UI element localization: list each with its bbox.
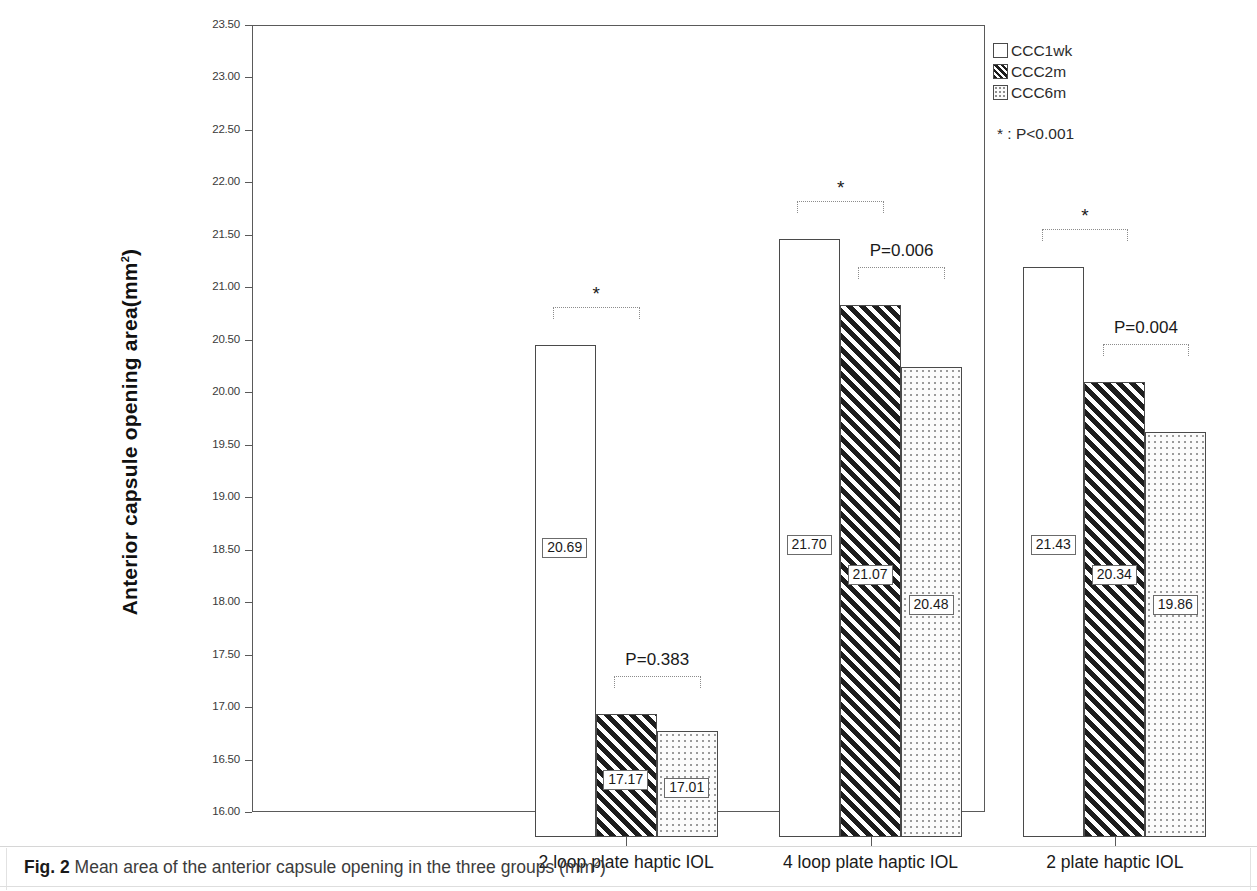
- y-axis-tick-label: 23.50: [190, 18, 240, 30]
- y-axis-tick-label: 19.50: [190, 438, 240, 450]
- significance-bracket: [797, 201, 884, 213]
- legend-item-ccc6m: CCC6m: [993, 82, 1243, 103]
- x-axis-tick-mark: [871, 837, 872, 846]
- legend-item-label: CCC2m: [1011, 63, 1066, 81]
- bar-value-label: 20.69: [542, 538, 587, 558]
- y-axis-tick-mark: [245, 707, 252, 708]
- bar-value-label: 17.01: [664, 778, 709, 798]
- figure-caption-text-end: ): [600, 857, 606, 877]
- figure-caption-text: Mean area of the anterior capsule openin…: [75, 857, 594, 877]
- significance-bracket: [1103, 344, 1190, 356]
- significance-bracket: [858, 267, 945, 279]
- y-axis-tick-label: 23.00: [190, 70, 240, 82]
- legend-swatch-icon: [993, 64, 1008, 79]
- y-axis-title-text: Anterior capsule opening area(mm: [118, 262, 141, 615]
- bar-ccc6m-3: [1145, 432, 1206, 837]
- y-axis-tick-mark: [245, 340, 252, 341]
- bar-value-label: 21.70: [787, 535, 832, 555]
- x-axis-tick-mark: [1115, 837, 1116, 846]
- legend-swatch-icon: [993, 85, 1008, 100]
- legend-item-ccc1wk: CCC1wk: [993, 40, 1243, 61]
- y-axis-tick-mark: [245, 235, 252, 236]
- significance-label: *: [1015, 205, 1155, 227]
- significance-label: *: [771, 177, 911, 199]
- legend-item-ccc2m: CCC2m: [993, 61, 1243, 82]
- significance-label: P=0.383: [587, 650, 727, 670]
- y-axis-title-superscript: 2: [119, 256, 131, 262]
- y-axis-tick-label: 19.00: [190, 490, 240, 502]
- figure-caption: Fig. 2 Mean area of the anterior capsule…: [24, 856, 1224, 878]
- y-axis-tick-mark: [245, 130, 252, 131]
- significance-bracket: [614, 676, 701, 688]
- significance-bracket: [1042, 229, 1129, 241]
- y-axis-tick-label: 21.50: [190, 228, 240, 240]
- y-axis-tick-label: 18.50: [190, 543, 240, 555]
- y-axis-tick-mark: [245, 77, 252, 78]
- figure-caption-tag: Fig. 2: [24, 857, 70, 877]
- bar-value-label: 20.48: [909, 595, 954, 615]
- y-axis-tick-label: 16.00: [190, 805, 240, 817]
- y-axis-tick-label: 16.50: [190, 753, 240, 765]
- bar-ccc2m-3: [1084, 382, 1145, 837]
- chart-legend: CCC1wkCCC2mCCC6m * : P<0.001: [993, 40, 1243, 143]
- y-axis-tick-label: 22.50: [190, 123, 240, 135]
- bar-value-label: 21.43: [1031, 535, 1076, 555]
- y-axis-tick-label: 20.50: [190, 333, 240, 345]
- y-axis-tick-label: 22.00: [190, 175, 240, 187]
- caption-top-divider: [0, 846, 1257, 847]
- bar-value-label: 20.34: [1092, 565, 1137, 585]
- bar-value-label: 21.07: [848, 565, 893, 585]
- bar-ccc1wk-1: [535, 345, 596, 837]
- significance-label: P=0.004: [1076, 318, 1216, 338]
- y-axis-tick-mark: [245, 655, 252, 656]
- plot-area: 2 loop plate haptic IOL20.6917.1717.01*P…: [252, 25, 985, 812]
- significance-bracket: [553, 307, 640, 319]
- y-axis-tick-mark: [245, 392, 252, 393]
- y-axis-tick-label: 17.50: [190, 648, 240, 660]
- y-axis-tick-mark: [245, 550, 252, 551]
- legend-significance-note: * : P<0.001: [997, 125, 1243, 143]
- legend-rows: CCC1wkCCC2mCCC6m: [993, 40, 1243, 103]
- y-axis-tick-label: 18.00: [190, 595, 240, 607]
- bar-value-label: 17.17: [603, 770, 648, 790]
- significance-label: *: [526, 283, 666, 305]
- y-axis-tick-label: 17.00: [190, 700, 240, 712]
- y-axis-tick-label: 20.00: [190, 385, 240, 397]
- y-axis-tick-mark: [245, 182, 252, 183]
- y-axis-tick-mark: [245, 287, 252, 288]
- y-axis-title-text-end: ): [118, 249, 141, 256]
- y-axis-tick-mark: [245, 812, 252, 813]
- x-axis-tick-mark: [626, 837, 627, 846]
- y-axis-title: Anterior capsule opening area(mm2): [118, 222, 142, 642]
- legend-item-label: CCC1wk: [1011, 42, 1072, 60]
- y-axis-tick-mark: [245, 497, 252, 498]
- legend-item-label: CCC6m: [1011, 84, 1066, 102]
- significance-label: P=0.006: [832, 241, 972, 261]
- y-axis-tick-mark: [245, 760, 252, 761]
- caption-bottom-divider: [0, 886, 1257, 887]
- y-axis-tick-label: 21.00: [190, 280, 240, 292]
- bar-value-label: 19.86: [1153, 595, 1198, 615]
- legend-swatch-icon: [993, 43, 1008, 58]
- y-axis-tick-mark: [245, 445, 252, 446]
- figure-chart: Anterior capsule opening area(mm2) 23.50…: [0, 0, 1257, 845]
- y-axis-tick-mark: [245, 25, 252, 26]
- y-axis-tick-mark: [245, 602, 252, 603]
- page-edge-right: [1250, 848, 1251, 890]
- page-edge-left: [6, 848, 7, 890]
